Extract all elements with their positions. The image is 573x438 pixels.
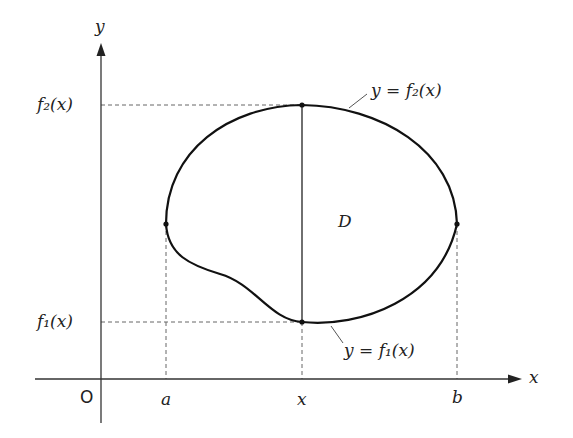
diagram-canvas [0,0,573,438]
y-tick-f2: f₂(x) [37,96,73,113]
y-axis-label: y [95,18,105,35]
axes [35,55,510,423]
x-tick-x: x [297,391,307,408]
point-f1 [299,319,304,324]
guide-lines [101,105,457,379]
y-axis-arrow-icon [97,43,106,56]
x-tick-b: b [452,389,463,406]
region-label: D [338,213,352,230]
x-axis-arrow-icon [508,375,522,384]
f2-leader-line [349,94,367,108]
point-f2 [299,102,304,107]
lower-curve-f1 [166,224,457,323]
lower-curve-label: y = f₁(x) [344,342,415,359]
upper-curve-f2 [166,105,457,224]
origin-label: O [80,389,93,406]
x-tick-a: a [161,391,171,408]
y-tick-f1: f₁(x) [37,313,73,330]
point-b [454,221,459,226]
region-diagram: y x O f₂(x) f₁(x) a x b y = f₂(x) y = f₁… [0,0,573,438]
f1-leader-line [331,326,343,343]
point-a [163,221,168,226]
upper-curve-label: y = f₂(x) [371,82,442,99]
x-axis-label: x [529,369,539,386]
